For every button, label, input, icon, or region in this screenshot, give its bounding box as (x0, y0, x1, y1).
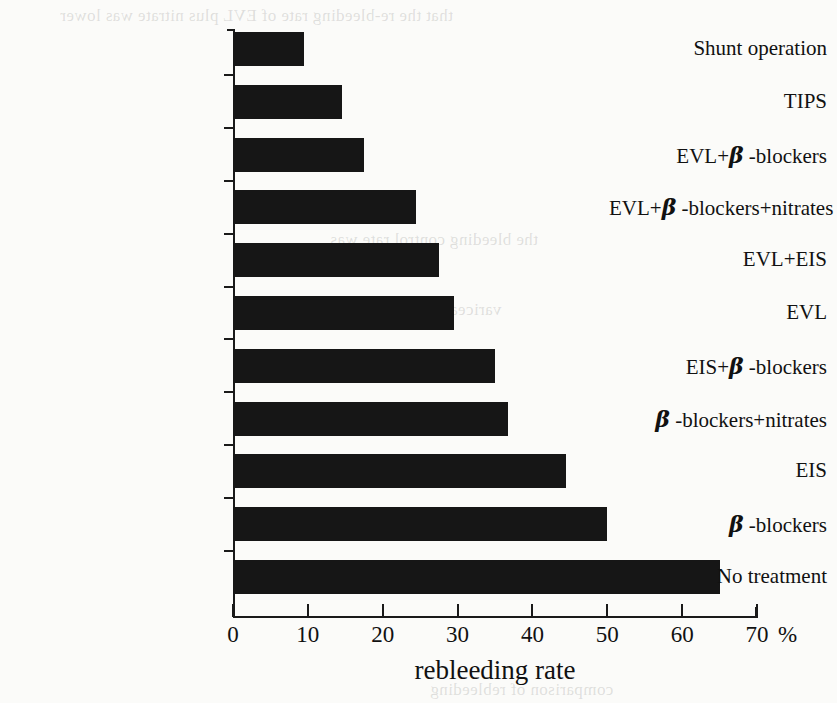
category-label-text: Shunt operation (693, 36, 827, 60)
bar (233, 32, 304, 66)
bar (233, 190, 416, 224)
y-axis-tick (224, 391, 234, 393)
y-axis-tick (224, 180, 234, 182)
category-label: EVL (609, 302, 837, 323)
category-label: Shunt operation (609, 38, 837, 59)
x-axis-tick (756, 604, 758, 617)
y-axis-top-cap (227, 29, 235, 31)
category-label-text: EVL+ (676, 144, 729, 168)
x-axis-tick-label: 10 (278, 622, 338, 648)
category-label-suffix: -blockers (744, 355, 827, 379)
x-axis-tick-label: 40 (502, 622, 562, 648)
bar (233, 85, 342, 119)
x-axis-tick-label: 50 (577, 622, 637, 648)
y-axis-tick (224, 550, 234, 552)
beta-symbol: β (662, 194, 677, 220)
bar (233, 296, 454, 330)
x-axis-tick (382, 604, 384, 617)
category-label-suffix: -blockers+nitrates (670, 408, 827, 432)
scanned-figure-page: that the re-bleeding rate of EVL plus ni… (0, 0, 837, 703)
category-label-text: EVL+EIS (743, 247, 827, 271)
bar (233, 349, 495, 383)
y-axis-tick (224, 233, 234, 235)
x-axis-tick (307, 604, 309, 617)
category-label-text: TIPS (784, 89, 827, 113)
x-axis-tick-label: 60 (652, 622, 712, 648)
beta-symbol: β (655, 406, 670, 432)
bar (233, 138, 364, 172)
rebleeding-rate-bar-chart: Shunt operationTIPSEVL+β -blockersEVL+β … (0, 0, 837, 703)
bar (233, 402, 508, 436)
category-label-suffix: -blockers+nitrates (676, 196, 833, 220)
beta-symbol: β (729, 511, 744, 537)
bar (233, 507, 607, 541)
category-label: No treatment (609, 566, 837, 587)
category-label: β -blockers (609, 513, 837, 536)
category-label: β -blockers+nitrates (609, 408, 837, 431)
x-axis-tick (531, 604, 533, 617)
bar (233, 454, 566, 488)
category-label-suffix: -blockers (744, 144, 827, 168)
beta-symbol: β (729, 142, 744, 168)
category-label-text: EIS (796, 458, 828, 482)
category-label: EIS (609, 460, 837, 481)
bar (233, 243, 439, 277)
category-label: EIS+β -blockers (609, 355, 837, 378)
x-axis-tick (457, 604, 459, 617)
category-label-text: No treatment (717, 564, 827, 588)
beta-symbol: β (729, 353, 744, 379)
x-axis-tick (232, 604, 234, 617)
category-label-text: EIS+ (686, 355, 729, 379)
category-label: EVL+β -blockers (609, 144, 837, 167)
x-axis-line (233, 616, 758, 618)
x-axis-tick (606, 604, 608, 617)
y-axis-tick (224, 338, 234, 340)
y-axis-tick (224, 444, 234, 446)
category-label: TIPS (609, 91, 837, 112)
x-axis-tick-label: 30 (428, 622, 488, 648)
y-axis-tick (224, 127, 234, 129)
category-label-text: EVL (786, 300, 827, 324)
x-axis-tick (681, 604, 683, 617)
y-axis-tick (224, 74, 234, 76)
x-axis-unit-label: % (778, 622, 797, 648)
y-axis-tick (224, 286, 234, 288)
y-axis-tick (224, 497, 234, 499)
category-label: EVL+EIS (609, 249, 837, 270)
category-label: EVL+β -blockers+nitrates (609, 196, 837, 219)
x-axis-tick-label: 0 (203, 622, 263, 648)
category-label-suffix: -blockers (744, 513, 827, 537)
x-axis-title: rebleeding rate (233, 655, 757, 686)
x-axis-tick-label: 20 (353, 622, 413, 648)
category-label-text: EVL+ (609, 196, 662, 220)
